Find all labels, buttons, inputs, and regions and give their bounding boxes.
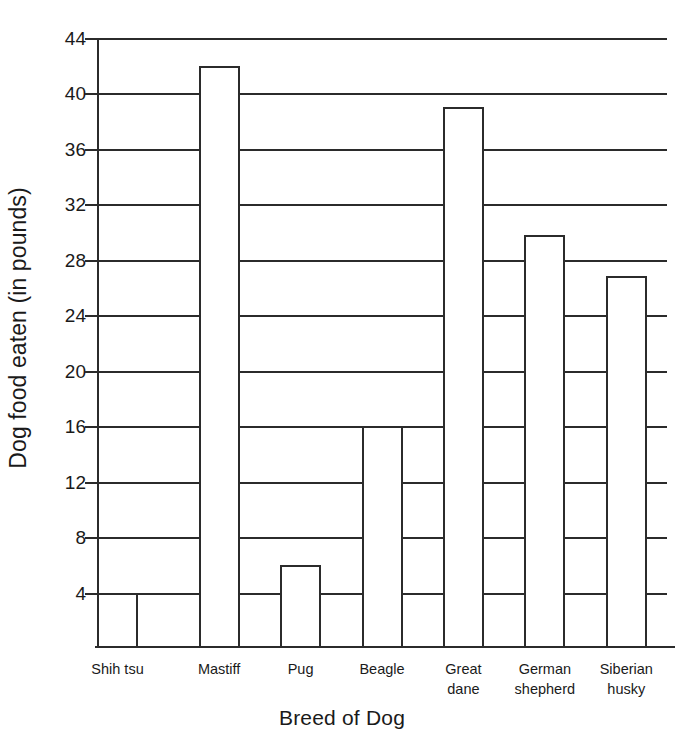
y-axis-tick-label: 28: [46, 250, 86, 269]
gridline: [97, 38, 667, 40]
y-axis-tick: [85, 371, 97, 373]
y-axis-tick-label: 4: [46, 583, 86, 602]
bar: [362, 426, 403, 648]
y-axis-tick: [85, 426, 97, 428]
y-axis-tick-label: 12: [46, 472, 86, 491]
gridline: [97, 371, 667, 373]
plot-area: [97, 38, 667, 648]
x-axis-title: Breed of Dog: [0, 706, 684, 730]
y-axis-tick-labels: 48121620242832364044: [42, 0, 86, 747]
gridline: [97, 315, 667, 317]
y-axis-tick-label: 8: [46, 528, 86, 547]
bar: [199, 66, 240, 648]
y-axis-tick-label: 16: [46, 417, 86, 436]
y-axis-tick-label: 36: [46, 139, 86, 158]
gridline: [97, 204, 667, 206]
x-axis-category-label: Mastiff: [177, 660, 262, 680]
y-axis-tick-label: 20: [46, 361, 86, 380]
y-axis-tick: [85, 38, 97, 40]
x-axis-category-label: Great dane: [421, 660, 506, 699]
y-axis-tick: [85, 593, 97, 595]
y-axis-line: [97, 38, 99, 648]
y-axis-tick-label: 40: [46, 84, 86, 103]
y-axis-tick: [85, 204, 97, 206]
x-axis-category-label: German shepherd: [502, 660, 587, 699]
y-axis-tick-label: 44: [46, 29, 86, 48]
y-axis-tick-label: 24: [46, 306, 86, 325]
y-axis-tick: [85, 149, 97, 151]
bar: [97, 593, 138, 648]
y-axis-title: Dog food eaten (in pounds): [0, 8, 36, 648]
y-axis-tick: [85, 537, 97, 539]
y-axis-tick: [85, 260, 97, 262]
x-axis-category-label: Shih tsu: [75, 660, 160, 680]
x-axis-category-label: Siberian husky: [584, 660, 669, 699]
y-axis-tick-label: 32: [46, 195, 86, 214]
bar: [280, 565, 321, 648]
bar: [524, 235, 565, 648]
bar-chart: Dog food eaten (in pounds) 4812162024283…: [0, 0, 684, 747]
x-axis-category-label: Beagle: [340, 660, 425, 680]
bar: [606, 276, 647, 648]
y-axis-tick: [85, 482, 97, 484]
y-axis-tick: [85, 93, 97, 95]
bar: [443, 107, 484, 648]
gridline: [97, 93, 667, 95]
gridline: [97, 149, 667, 151]
x-axis-category-label: Pug: [258, 660, 343, 680]
gridline: [97, 260, 667, 262]
x-axis-category-labels: Shih tsuMastiffPugBeagleGreat daneGerman…: [97, 660, 667, 710]
y-axis-tick: [85, 315, 97, 317]
